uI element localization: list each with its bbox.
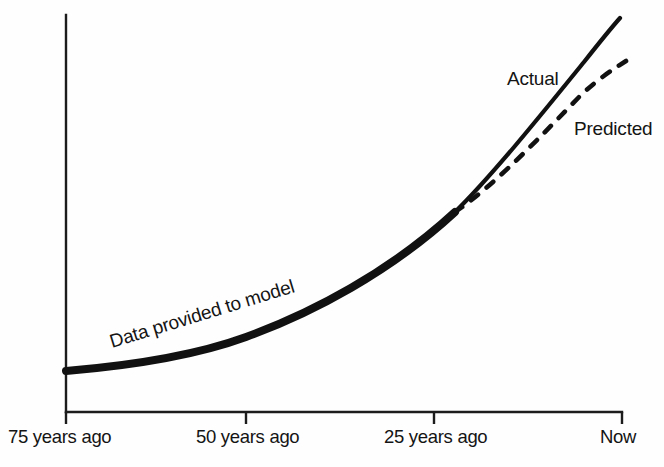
x-tick-label-now: Now (600, 426, 637, 447)
x-tick-label-25-years-ago: 25 years ago (384, 426, 487, 447)
predicted-series-label: Predicted (574, 118, 652, 139)
trained-region-label: Data provided to model (107, 276, 297, 352)
x-tick-label-75-years-ago: 75 years ago (8, 426, 111, 447)
chart-annotations: Data provided to model Actual Predicted (107, 68, 652, 352)
x-axis-ticks (66, 412, 622, 424)
x-axis-tick-labels: 75 years ago 50 years ago 25 years ago N… (8, 426, 637, 447)
series-line-actual (455, 18, 620, 212)
forecast-line-chart: Data provided to model Actual Predicted … (0, 0, 664, 467)
actual-series-label: Actual (507, 68, 559, 89)
x-tick-label-50-years-ago: 50 years ago (196, 426, 299, 447)
chart-container: Data provided to model Actual Predicted … (0, 0, 664, 467)
